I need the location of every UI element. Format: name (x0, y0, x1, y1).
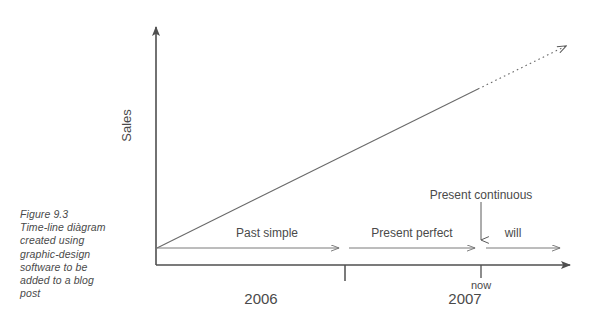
y-axis-title: Sales (119, 96, 134, 156)
label-present-perfect: Present perfect (371, 226, 452, 240)
label-present-continuous: Present continuous (430, 188, 533, 202)
timeline-diagram (0, 0, 589, 324)
label-past-simple: Past simple (236, 226, 298, 240)
figure-container: Figure 9.3 Time-line diàgram created usi… (0, 0, 589, 324)
label-year-2006: 2006 (244, 290, 277, 307)
label-year-2007: 2007 (448, 290, 481, 307)
sales-projection-line (478, 46, 566, 89)
label-will: will (505, 226, 522, 240)
sales-trend-line (157, 89, 478, 248)
